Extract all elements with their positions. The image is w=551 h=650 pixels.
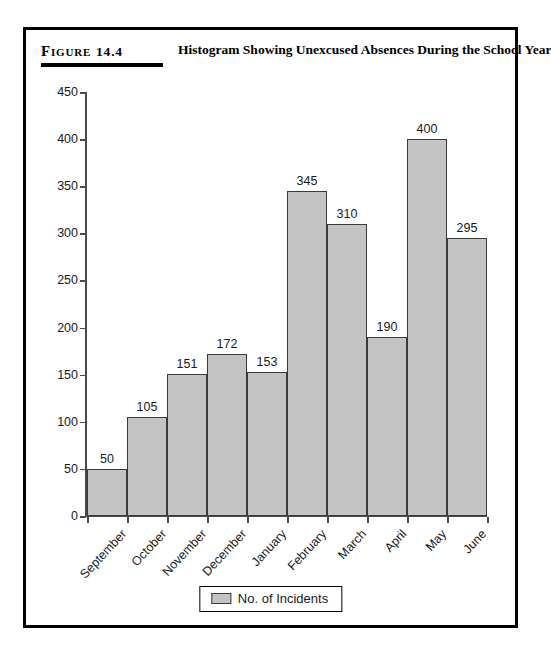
y-tick-label-200: 200 <box>38 321 78 335</box>
bar-november[interactable] <box>167 374 207 516</box>
y-tick-label-150: 150 <box>38 368 78 382</box>
y-tick-mark-450 <box>80 92 86 94</box>
bar-value-december: 172 <box>207 337 247 351</box>
x-tick-mark-2 <box>167 517 169 523</box>
bar-march[interactable] <box>327 224 367 516</box>
x-tick-mark-5 <box>287 517 289 523</box>
y-tick-mark-400 <box>80 139 86 141</box>
y-tick-mark-350 <box>80 186 86 188</box>
bar-april[interactable] <box>367 337 407 516</box>
x-tick-mark-3 <box>207 517 209 523</box>
bar-june[interactable] <box>447 238 487 516</box>
y-tick-label-300: 300 <box>38 226 78 240</box>
x-axis-label-april: April <box>382 527 409 555</box>
y-tick-mark-100 <box>80 422 86 424</box>
y-tick-label-50: 50 <box>38 462 78 476</box>
bar-october[interactable] <box>127 417 167 516</box>
y-tick-mark-200 <box>80 328 86 330</box>
x-tick-mark-6 <box>327 517 329 523</box>
x-axis-label-june: June <box>461 527 490 556</box>
legend-label-no-of-incidents: No. of Incidents <box>238 591 328 606</box>
x-tick-mark-4 <box>247 517 249 523</box>
y-tick-mark-250 <box>80 280 86 282</box>
bar-value-september: 50 <box>87 452 127 466</box>
bar-january[interactable] <box>247 372 287 516</box>
y-tick-mark-50 <box>80 469 86 471</box>
bar-value-june: 295 <box>447 221 487 235</box>
y-tick-label-450: 450 <box>38 85 78 99</box>
x-tick-mark-1 <box>127 517 129 523</box>
y-tick-label-100: 100 <box>38 415 78 429</box>
bar-value-april: 190 <box>367 320 407 334</box>
x-tick-mark-10 <box>487 517 489 523</box>
x-tick-mark-0 <box>87 517 89 523</box>
bar-february[interactable] <box>287 191 327 516</box>
bar-value-february: 345 <box>287 174 327 188</box>
bar-value-october: 105 <box>127 400 167 414</box>
bar-december[interactable] <box>207 354 247 516</box>
y-tick-mark-150 <box>80 375 86 377</box>
x-axis-label-may: May <box>423 527 449 554</box>
bar-september[interactable] <box>87 469 127 516</box>
x-tick-mark-9 <box>447 517 449 523</box>
y-tick-label-350: 350 <box>38 179 78 193</box>
x-axis-label-january: January <box>249 527 290 569</box>
chart-legend: No. of Incidents <box>199 586 342 612</box>
bars-layer: 50105151172153345310190400295 <box>87 92 487 516</box>
x-tick-mark-8 <box>407 517 409 523</box>
x-axis-label-february: February <box>285 527 329 573</box>
bar-value-may: 400 <box>407 122 447 136</box>
x-axis-label-september: September <box>77 527 129 581</box>
y-tick-mark-0 <box>80 516 86 518</box>
y-tick-label-400: 400 <box>38 132 78 146</box>
figure-frame: Figure14.4 Histogram Showing Unexcused A… <box>23 27 518 628</box>
y-tick-mark-300 <box>80 233 86 235</box>
y-tick-label-250: 250 <box>38 273 78 287</box>
x-axis-label-march: March <box>335 527 369 562</box>
chart-plot-area: 050100150200250300350400450 501051511721… <box>26 30 515 625</box>
bar-value-march: 310 <box>327 207 367 221</box>
x-tick-mark-7 <box>367 517 369 523</box>
y-tick-label-0: 0 <box>38 509 78 523</box>
bar-value-november: 151 <box>167 357 207 371</box>
bar-value-january: 153 <box>247 355 287 369</box>
bar-may[interactable] <box>407 139 447 516</box>
x-axis-label-october: October <box>129 527 170 569</box>
legend-swatch-no-of-incidents <box>211 593 231 604</box>
